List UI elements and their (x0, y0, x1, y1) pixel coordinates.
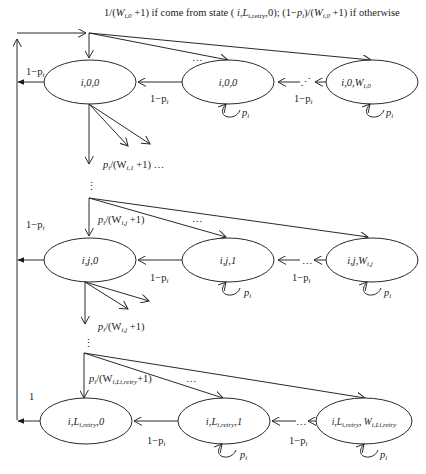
state-i-0-W (326, 60, 418, 104)
rowL-backoff-label-2: 1−pi (289, 435, 307, 448)
rowj-fanout-ellipsis: … (192, 213, 203, 224)
rowL-fanout (84, 353, 365, 398)
rowL-back-label: 1 (29, 391, 34, 402)
state-i-j-1-label: i,j,1 (220, 255, 236, 266)
row0-between-ellipsis: ⋰ (300, 77, 311, 88)
rowL-self-loop-label-2: pi (379, 449, 387, 462)
rowL-between-ellipsis: … (296, 416, 307, 427)
state-i-0-0-label: i,0,0 (81, 77, 100, 88)
state-i-0-1-label: i,0,0 (219, 77, 238, 88)
rowj-self-loop-label-1: pi (243, 287, 251, 300)
rowL-in-label: pi/(Wi,Li,retry+1) (88, 373, 152, 386)
row-stage-0: i,0,0 i,0,0 i,0,Wi,0 ⋰ 1−pi 1−pi 1−pi pi… (18, 60, 418, 172)
row0-backoff-label-2: 1−pi (294, 93, 312, 106)
row0-self-loop-2 (366, 104, 384, 117)
rowL-self-loop-label-1: pi (239, 449, 247, 462)
top-transition-label: 1/(Wi,0 +1) if come from state ( i,Li,re… (104, 7, 400, 20)
rowj-self-loop-label-2: pi (383, 287, 391, 300)
vertical-ellipsis-2: ⋮ (83, 338, 94, 349)
rowj-back-label: 1−pi (26, 219, 44, 232)
row0-self-loop-label-1: pi (241, 107, 249, 120)
row0-fanout (89, 33, 371, 60)
rowj-down-label: pi/(Wi,j +1) (97, 321, 145, 334)
markov-chain-diagram: 1/(Wi,0 +1) if come from state ( i,Li,re… (0, 0, 426, 474)
state-i-j-0-label: i,j,0 (82, 255, 99, 266)
row-stage-j: i,j,0 i,j,1 i,j,Wi,j … 1−pi 1−pi 1−pi pi… (18, 219, 418, 334)
rowL-fanout-ellipsis: … (186, 373, 197, 384)
rowj-in-label: pi/(Wi,j +1) (97, 214, 145, 227)
rowj-between-ellipsis: … (302, 255, 313, 266)
rowj-backoff-label-2: 1−pi (292, 272, 310, 285)
row0-fanout-ellipsis: … (192, 52, 203, 63)
row0-back-label: 1−pi (26, 66, 44, 79)
rowj-backoff-label: 1−pi (150, 272, 168, 285)
row-stage-L-retry: i,Li,retry,0 i,Li,retry,1 i,Li,retry, Wi… (18, 391, 412, 462)
row0-down-label: pi/(Wi,1 +1) … (102, 159, 164, 172)
row0-self-loop-1 (222, 104, 240, 117)
row0-self-loop-label-2: pi (385, 107, 393, 120)
rowL-backoff-label: 1−pi (147, 435, 165, 448)
vertical-ellipsis-1: ⋮ (86, 181, 97, 192)
row0-backoff-label: 1−pi (150, 93, 168, 106)
